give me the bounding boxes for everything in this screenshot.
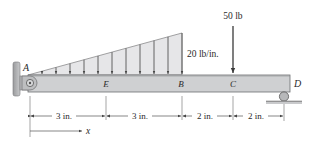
- point-load-label: 50 lb: [223, 11, 243, 21]
- load-triangle: [28, 33, 182, 75]
- label-A: A: [22, 62, 30, 73]
- x-axis-label: x: [85, 126, 91, 136]
- dimension-BC: 2 in.: [197, 111, 213, 121]
- label-B: B: [178, 79, 184, 89]
- dimension-EB: 3 in.: [132, 111, 148, 121]
- dimension-AE: 3 in.: [56, 111, 72, 121]
- distributed-load: [28, 33, 182, 75]
- beam: [28, 75, 290, 92]
- dimension-CD: 2 in.: [248, 111, 264, 121]
- roller-icon: [279, 92, 288, 101]
- label-D: D: [293, 78, 302, 89]
- distributed-load-label: 20 lb/in.: [187, 49, 219, 59]
- roller-support-D: [266, 92, 302, 104]
- pin-icon: [22, 76, 37, 90]
- label-E: E: [102, 79, 109, 89]
- beam-diagram: 20 lb/in. 50 lb A E B C D: [0, 0, 315, 144]
- label-C: C: [230, 79, 237, 89]
